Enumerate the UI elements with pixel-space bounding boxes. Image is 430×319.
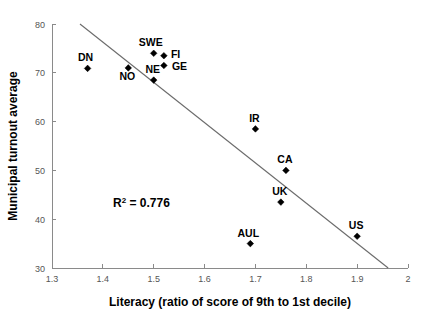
- axes: [52, 24, 408, 268]
- point-label-uk: UK: [272, 185, 288, 197]
- point-label-ge: GE: [172, 60, 187, 72]
- x-tick-label: 2: [405, 274, 410, 284]
- data-marker-swe: [150, 50, 157, 57]
- point-label-us: US: [349, 219, 364, 231]
- data-marker-us: [354, 233, 361, 240]
- data-marker-fi: [161, 52, 168, 59]
- x-tick-label: 1.5: [147, 274, 160, 284]
- tick-marks: [52, 24, 408, 268]
- data-marker-ir: [252, 126, 259, 133]
- point-label-dn: DN: [78, 51, 93, 63]
- regression-line: [80, 24, 388, 268]
- point-label-fi: FI: [171, 48, 180, 60]
- x-tick-label: 1.9: [351, 274, 364, 284]
- data-marker-uk: [278, 199, 285, 206]
- point-label-ca: CA: [277, 153, 293, 165]
- x-tick-labels: 1.31.41.51.61.71.81.92: [46, 274, 411, 284]
- point-label-no: NO: [119, 70, 135, 82]
- r-squared-text: R2 = 0.776: [113, 196, 170, 210]
- point-label-aul: AUL: [238, 227, 260, 239]
- point-label-ne: NE: [145, 63, 160, 75]
- y-tick-label: 70: [35, 68, 45, 78]
- y-tick-label: 30: [35, 264, 45, 274]
- scatter-plot: 1.31.41.51.61.71.81.92 304050607080 DNNO…: [0, 0, 430, 319]
- x-axis-title: Literacy (ratio of score of 9th to 1st d…: [109, 295, 351, 309]
- data-marker-aul: [247, 240, 254, 247]
- y-axis-title: Municipal turnout average: [6, 71, 20, 221]
- x-tick-label: 1.3: [46, 274, 59, 284]
- chart-figure: 1.31.41.51.61.71.81.92 304050607080 DNNO…: [0, 0, 430, 319]
- data-marker-dn: [84, 65, 91, 72]
- x-tick-label: 1.6: [198, 274, 211, 284]
- data-marker-ca: [283, 167, 290, 174]
- x-tick-label: 1.7: [249, 274, 262, 284]
- axis-lines: [52, 24, 408, 268]
- point-label-ir: IR: [249, 112, 260, 124]
- y-tick-label: 50: [35, 166, 45, 176]
- x-tick-label: 1.4: [97, 274, 110, 284]
- x-tick-label: 1.8: [300, 274, 313, 284]
- y-tick-labels: 304050607080: [35, 20, 45, 274]
- r-squared-annotation: R2 = 0.776: [113, 196, 170, 210]
- y-tick-label: 40: [35, 215, 45, 225]
- data-marker-ge: [161, 62, 168, 69]
- point-label-swe: SWE: [139, 36, 163, 48]
- data-marker-ne: [150, 77, 157, 84]
- y-tick-label: 80: [35, 20, 45, 30]
- trend-line: [80, 24, 388, 268]
- y-tick-label: 60: [35, 117, 45, 127]
